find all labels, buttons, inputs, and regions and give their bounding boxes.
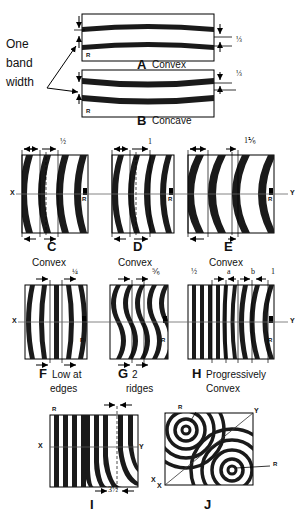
panel-I-axis-X: X	[38, 442, 43, 449]
panel-G-corner-mark: R	[161, 337, 165, 343]
panel-I-corner-mark: R	[52, 406, 56, 412]
panel-E-letter: E	[224, 240, 233, 253]
panel-F-letter: F	[39, 367, 47, 380]
panel-G-caption-1: 2	[132, 370, 138, 380]
panel-C-dimension: ½	[60, 138, 66, 146]
panel-D-corner-mark: R	[168, 196, 172, 202]
panel-I-letter: I	[90, 498, 94, 511]
panel-J-axis-X: X	[157, 482, 162, 489]
panel-H-graphic	[188, 279, 274, 363]
panel-D-dimension: 1	[148, 138, 152, 146]
panel-I-axis-Y: Y	[139, 443, 144, 450]
panel-A-letter: A	[137, 58, 146, 71]
panel-A-caption: Convex	[152, 60, 186, 70]
panel-F-caption-2: edges	[50, 384, 77, 394]
panel-C-letter: C	[47, 240, 56, 253]
interference-fringe-figure: One band width ⅓ R A Convex ⅓ R B Concav…	[0, 0, 305, 522]
panel-A-dimension: ⅓	[236, 36, 242, 44]
panel-H-dimension-2: a	[227, 268, 231, 276]
panel-C-caption: Convex	[32, 258, 66, 268]
panel-F-caption-1: Low at	[52, 370, 81, 380]
panel-H-dimension-1: ½	[191, 268, 197, 276]
panel-J-axis-Y: Y	[254, 407, 259, 414]
axis-label-X-cde: X	[10, 189, 15, 196]
panel-J-letter: J	[204, 498, 211, 511]
axis-label-Y-fgh: Y	[290, 317, 295, 324]
panel-H-letter: H	[192, 367, 201, 380]
panel-F-dimension: ¼	[72, 268, 78, 276]
panel-F-corner-mark: R	[80, 337, 84, 343]
panel-E-caption: Convex	[209, 258, 243, 268]
panel-A-corner-mark: R	[86, 52, 90, 58]
panel-B-letter: B	[137, 114, 146, 127]
panel-H-caption-1: Progressively	[206, 370, 266, 380]
panel-I-dimension: 3½	[108, 486, 118, 494]
panel-H-dimension-3: b	[251, 268, 255, 276]
panel-B-dimension: ⅓	[236, 70, 242, 78]
panel-J-corner-mark-top: R	[178, 404, 182, 410]
panel-I-axis-X-right: X	[151, 476, 156, 483]
panel-J-corner-mark-bottom: R	[273, 461, 277, 467]
panel-D-caption: Convex	[118, 258, 152, 268]
panel-E-dimension: 1⅙	[244, 137, 256, 145]
panel-H-corner-mark: R	[268, 337, 272, 343]
panel-D-letter: D	[133, 240, 142, 253]
annotation-one: One	[6, 38, 29, 50]
axis-label-Y-cde: Y	[290, 189, 295, 196]
panel-G-dimension: ⅚	[152, 268, 160, 276]
panel-B-caption: Concave	[152, 116, 191, 126]
panel-C-corner-mark: R	[82, 196, 86, 202]
panel-A-graphic	[74, 14, 232, 61]
panel-E-corner-mark: R	[268, 196, 272, 202]
panel-G-caption-2: ridges	[126, 384, 153, 394]
panel-G-letter: G	[118, 367, 128, 380]
panel-I-graphic	[50, 405, 138, 491]
axis-label-X-fgh: X	[12, 317, 17, 324]
annotation-width: width	[6, 76, 34, 88]
annotation-band: band	[6, 57, 33, 69]
panel-B-corner-mark: R	[86, 108, 90, 114]
panel-H-caption-2: Convex	[206, 384, 240, 394]
panel-H-dimension-4: 1	[271, 268, 275, 276]
